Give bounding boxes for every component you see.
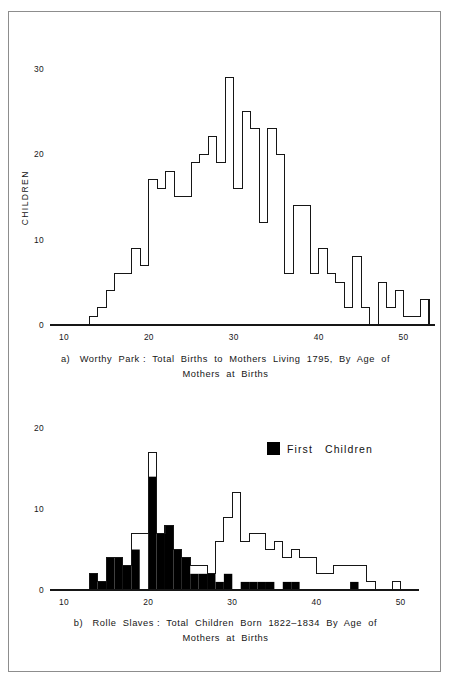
histogram-bar-filled [182,558,190,590]
histogram-bar-filled [98,582,106,590]
x-tick-label: 30 [227,597,237,607]
histogram-bar-filled [148,477,156,590]
x-tick-label: 50 [399,332,409,342]
histogram-bar-filled [114,558,122,590]
caption-rolle-slaves-line1: b) Rolle Slaves : Total Children Born 18… [9,616,442,631]
y-tick-label: 30 [34,64,44,74]
histogram-bar-filled [249,582,257,590]
histogram-bar-filled [199,574,207,590]
histogram-bar-filled [157,533,165,590]
x-tick-label: 10 [59,332,69,342]
x-tick-label: 40 [311,597,321,607]
rolle-slaves-histogram: 010201020304050 [9,398,442,623]
histogram-bar-filled [266,582,274,590]
legend-swatch-first-children [267,442,280,455]
histogram-bar-filled [131,550,139,590]
histogram-bar-filled [215,582,223,590]
histogram-bar-filled [173,550,181,590]
histogram-bar-filled [89,574,97,590]
histogram-bar-filled [350,582,358,590]
chart-panel-worthy-park: 01020301020304050AGECHILDREN [9,18,442,398]
caption-worthy-park: a) Worthy Park : Total Births to Mothers… [9,352,442,382]
histogram-bar-filled [241,582,249,590]
x-tick-label: 20 [143,597,153,607]
legend-label-first-children: First Children [287,443,373,455]
histogram-bar-filled [190,574,198,590]
x-tick-label: 30 [229,332,239,342]
histogram-bar-filled [207,574,215,590]
y-axis-title: CHILDREN [20,170,30,225]
worthy-park-histogram: 01020301020304050AGECHILDREN [9,18,442,348]
histogram-bar-filled [123,566,131,590]
x-tick-label: 50 [396,597,406,607]
histogram-bar-filled [224,574,232,590]
caption-worthy-park-line1: a) Worthy Park : Total Births to Mothers… [9,352,442,367]
y-tick-label: 20 [34,149,44,159]
y-tick-label: 0 [39,585,44,595]
y-tick-label: 10 [34,235,44,245]
y-tick-label: 0 [39,320,44,330]
caption-rolle-slaves-line2: Mothers at Births [9,631,442,646]
histogram-bar-filled [283,582,291,590]
histogram-bar-filled [258,582,266,590]
histogram-bar-filled [165,525,173,590]
histogram-bar-filled [106,558,114,590]
figure-frame: 01020301020304050AGECHILDREN a) Worthy P… [8,11,441,672]
caption-rolle-slaves: b) Rolle Slaves : Total Children Born 18… [9,616,442,646]
x-tick-label: 10 [59,597,69,607]
caption-worthy-park-line2: Mothers at Births [9,367,442,382]
y-tick-label: 10 [34,504,44,514]
legend-first-children: First Children [267,442,373,455]
x-tick-label: 40 [314,332,324,342]
histogram-bar-filled [291,582,299,590]
x-tick-label: 20 [144,332,154,342]
histogram-outline [89,77,429,325]
y-tick-label: 20 [34,423,44,433]
